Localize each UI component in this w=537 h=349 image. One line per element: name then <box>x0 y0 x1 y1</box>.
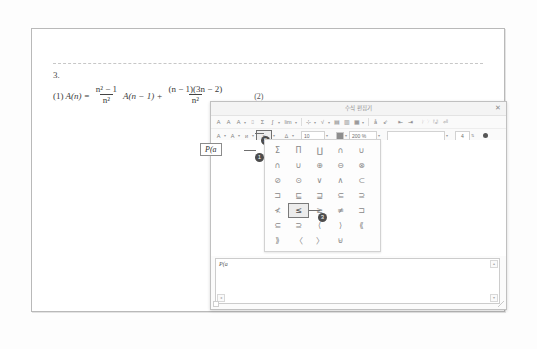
dialog-resize-handle[interactable] <box>498 301 504 307</box>
palette-cell-misc[interactable]: ⊌ <box>330 233 351 248</box>
palette-row: Σ Π ∐ ∩ ∪ <box>267 143 378 158</box>
palette-cell-sqsupset[interactable]: ⊐ <box>267 188 288 203</box>
chevron-down-icon[interactable]: ▾ <box>362 120 364 125</box>
palette-cell-subset[interactable]: ⊂ <box>351 173 372 188</box>
insert-tool-button[interactable]: ⏎ <box>441 117 450 127</box>
unit-stepper-input[interactable]: 4 <box>455 131 470 141</box>
bracket-tool-button[interactable]: ▥ <box>342 117 351 127</box>
prev-tool-button[interactable]: ⇤ <box>396 117 405 127</box>
style-select[interactable] <box>387 131 445 141</box>
accent-tool-button[interactable]: å <box>371 117 380 127</box>
sigma-tool-button[interactable]: Σ <box>258 117 267 127</box>
fraction-one-denominator: n² <box>100 94 113 105</box>
palette-row: ⊐ ⊑ ⊒ ⊆ ⊇ <box>267 188 378 203</box>
palette-cell-lllangle[interactable]: ⟪ <box>351 218 372 233</box>
expression-text: P(a <box>205 145 217 154</box>
font-style-a2-button[interactable]: A <box>224 117 233 127</box>
editor-canvas[interactable]: P(a 1 2 Σ Π ∐ ∩ <box>211 140 506 256</box>
chevron-down-icon[interactable]: ▾ <box>328 120 330 125</box>
equation-lhs: A(n) = <box>66 91 90 101</box>
palette-cell-cap[interactable]: ∩ <box>267 158 288 173</box>
palette-cell-odot[interactable]: ⊙ <box>288 173 309 188</box>
equation-preview-pane[interactable]: P(a ▴ ▾ ◂ <box>215 258 500 304</box>
palette-cell-intersection[interactable]: ∩ <box>330 143 351 158</box>
palette-cell-supseteq2[interactable]: ⊇ <box>288 218 309 233</box>
latin-letters-button[interactable]: A <box>228 131 237 141</box>
chevron-down-icon[interactable]: ▾ <box>378 133 380 138</box>
help-icon[interactable] <box>481 131 490 141</box>
chevron-down-icon[interactable]: ▾ <box>273 133 275 138</box>
toolbar-separator <box>368 118 369 126</box>
scroll-down-button[interactable]: ▾ <box>490 294 498 302</box>
dialog-corner-marker <box>213 301 219 307</box>
palette-cell-sqsupset2[interactable]: ⊐ <box>351 203 372 218</box>
callout-3: 3 <box>318 205 327 223</box>
palette-cell-oslash[interactable]: ⊘ <box>267 173 288 188</box>
callout-1: 1 <box>255 145 264 163</box>
palette-cell-subseteq2[interactable]: ⊆ <box>267 218 288 233</box>
chevron-down-icon[interactable]: ▾ <box>252 133 254 138</box>
chevron-down-icon[interactable]: ▾ <box>278 120 280 125</box>
chevron-down-icon[interactable]: ▾ <box>446 133 448 138</box>
palette-cell-vee[interactable]: ∨ <box>309 173 330 188</box>
save-tool-button[interactable]: 🖫 <box>431 117 440 127</box>
grid-tool-button[interactable]: ▦ <box>352 117 361 127</box>
fraction-tool-button[interactable]: ⊹ <box>304 117 313 127</box>
chevron-down-icon[interactable]: ▾ <box>295 120 297 125</box>
palette-cell-supseteq[interactable]: ⊇ <box>351 188 372 203</box>
palette-cell-oplus[interactable]: ⊕ <box>309 158 330 173</box>
chevron-down-icon[interactable]: ▾ <box>224 133 226 138</box>
palette-cell-langle2[interactable]: 〈 <box>288 233 309 248</box>
script-tool-button[interactable]: ⌷ <box>248 117 257 127</box>
dialog-title: 수식 편집기 <box>211 104 506 112</box>
close-icon[interactable]: ✕ <box>494 104 502 112</box>
palette-cell-wedge[interactable]: ∧ <box>330 173 351 188</box>
palette-cell-rangle[interactable]: ⟩ <box>330 218 351 233</box>
palette-cell-coproduct[interactable]: ∐ <box>309 143 330 158</box>
palette-cell-rrrangle[interactable]: ⟫ <box>267 233 288 248</box>
callout-3-badge: 3 <box>318 213 327 222</box>
palette-cell-subseteq[interactable]: ⊆ <box>330 188 351 203</box>
palette-cell-pi[interactable]: Π <box>288 143 309 158</box>
dialog-titlebar[interactable]: 수식 편집기 ✕ <box>211 102 506 116</box>
palette-cell-otimes[interactable]: ⊗ <box>351 158 372 173</box>
scroll-up-button[interactable]: ▴ <box>490 260 498 268</box>
expression-box[interactable]: P(a <box>200 143 222 156</box>
chevron-down-icon[interactable]: ▾ <box>292 133 294 138</box>
integral-tool-button[interactable]: ∫ <box>268 117 277 127</box>
matrix-tool-button[interactable]: ▤ <box>332 117 341 127</box>
palette-cell-nequiv[interactable]: ≢ <box>330 203 351 218</box>
stepper-icon[interactable]: ⇅ <box>471 133 474 138</box>
callout-1-badge: 1 <box>255 153 264 162</box>
chevron-down-icon[interactable]: ▾ <box>238 133 240 138</box>
palette-cell-rangle2[interactable]: 〉 <box>309 233 330 248</box>
limit-tool-button[interactable]: lim <box>282 117 294 127</box>
chevron-down-icon[interactable]: ▾ <box>345 133 347 138</box>
equation-mid: A(n − 1) + <box>123 91 162 101</box>
palette-cell-sqsupseteq[interactable]: ⊒ <box>309 188 330 203</box>
palette-cell-cup[interactable]: ∪ <box>288 158 309 173</box>
arrow-tool-button[interactable]: ⇙ <box>381 117 390 127</box>
palette-cell-not-less[interactable]: ≮ <box>267 203 288 218</box>
question-number: 3. <box>53 70 60 80</box>
special-letters-button[interactable]: ᴎ <box>242 131 251 141</box>
open-tool-button[interactable]: 🗁 <box>421 117 430 127</box>
help-dot <box>483 133 488 138</box>
palette-cell-sigma[interactable]: Σ <box>267 143 288 158</box>
palette-row: ⟫ 〈 〉 ⊌ <box>267 233 378 248</box>
greek-letters-button[interactable]: Α <box>214 131 223 141</box>
font-style-a1-button[interactable]: A <box>214 117 223 127</box>
next-tool-button[interactable]: ⇥ <box>406 117 415 127</box>
chevron-down-icon[interactable]: ▾ <box>244 120 246 125</box>
chevron-down-icon[interactable]: ▾ <box>314 120 316 125</box>
less-than-or-equal-symbol[interactable]: ≤ <box>288 203 309 218</box>
root-tool-button[interactable]: √ <box>318 117 327 127</box>
equation-label: (1) <box>53 91 64 101</box>
palette-cell-union[interactable]: ∪ <box>351 143 372 158</box>
fraction-one-numerator: n² − 1 <box>93 85 120 94</box>
palette-cell-ominus[interactable]: ⊖ <box>330 158 351 173</box>
palette-cell-sqsubseteq[interactable]: ⊑ <box>288 188 309 203</box>
chevron-down-icon[interactable]: ▾ <box>326 133 328 138</box>
font-style-a3-button[interactable]: A <box>234 117 243 127</box>
fraction-two-denominator: n² <box>189 94 202 105</box>
